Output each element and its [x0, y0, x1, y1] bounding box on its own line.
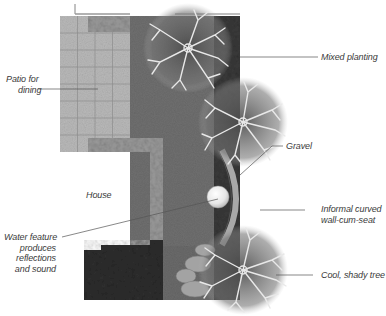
label-wall-line2: wall-cum-seat: [321, 215, 382, 226]
label-water-line1: Water feature: [4, 232, 56, 243]
label-patio-line1: Patio for: [6, 74, 41, 85]
label-house: House: [86, 190, 112, 201]
label-water-line3: reflections: [4, 253, 56, 264]
label-water-feature: Water feature produces reflections and s…: [4, 232, 56, 274]
label-curved-wall: Informal curved wall-cum-seat: [321, 204, 382, 225]
label-water-line4: and sound: [4, 264, 56, 275]
label-patio: Patio for dining: [6, 74, 41, 95]
lower-planting-bed: [84, 240, 163, 300]
tree-middle: [198, 77, 288, 167]
garden-plan-drawing: [0, 0, 386, 316]
label-mixed-planting: Mixed planting: [321, 52, 378, 63]
tree-cool-shady: [198, 225, 288, 315]
label-water-line2: produces: [4, 243, 56, 254]
water-feature: [207, 186, 229, 208]
label-wall-line1: Informal curved: [321, 204, 382, 215]
label-shady-tree: Cool, shady tree: [321, 270, 385, 281]
patio: [60, 16, 130, 152]
label-patio-line2: dining: [6, 85, 41, 96]
tree-top: [143, 3, 233, 93]
label-gravel: Gravel: [286, 141, 312, 152]
